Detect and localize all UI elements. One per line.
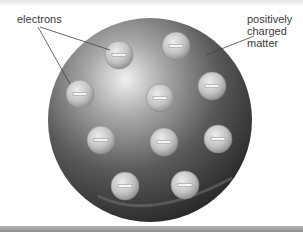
minus-sign-icon <box>211 138 225 141</box>
minus-sign-icon <box>169 45 183 48</box>
electron <box>111 172 139 200</box>
bottom-bar <box>0 226 303 232</box>
electrons-label: electrons <box>17 13 62 25</box>
electron <box>146 84 174 112</box>
electron <box>105 41 133 69</box>
electron <box>162 32 190 60</box>
electron <box>66 80 94 108</box>
minus-sign-icon <box>178 184 192 187</box>
electron <box>204 125 232 153</box>
minus-sign-icon <box>73 93 87 96</box>
electron <box>150 128 178 156</box>
minus-sign-icon <box>112 54 126 57</box>
positive-matter-label-line2: charged <box>247 25 303 37</box>
positive-matter-label-line3: matter <box>247 37 303 49</box>
minus-sign-icon <box>94 139 108 142</box>
electron <box>198 72 226 100</box>
electron <box>171 171 199 199</box>
positive-matter-label: positively charged matter <box>247 13 303 49</box>
minus-sign-icon <box>118 185 132 188</box>
minus-sign-icon <box>205 85 219 88</box>
positive-matter-label-line1: positively <box>247 13 303 25</box>
minus-sign-icon <box>153 97 167 100</box>
minus-sign-icon <box>157 141 171 144</box>
electron <box>87 126 115 154</box>
